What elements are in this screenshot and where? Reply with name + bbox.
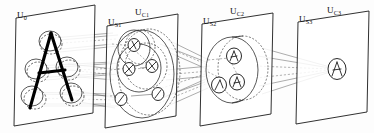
plane-uc2 xyxy=(200,13,273,126)
feature-cell xyxy=(128,39,140,52)
layer-label-uc2: UC2 xyxy=(230,7,244,16)
plane-u0 xyxy=(14,5,95,126)
layer-label-uc3: UC3 xyxy=(327,6,341,15)
layer-label-us2-sub: S2 xyxy=(210,21,217,27)
layer-label-u0: U0 xyxy=(17,11,27,20)
layer-label-us3: US3 xyxy=(299,15,312,24)
layer-label-us1-sub: S1 xyxy=(115,22,122,28)
layer-label-uc1-sub: C1 xyxy=(142,12,149,18)
feature-cell xyxy=(212,77,227,93)
layer-label-uc2-sub: C2 xyxy=(237,11,244,17)
layer-label-u0-sub: 0 xyxy=(24,15,27,21)
feature-cell xyxy=(230,74,245,90)
feature-cell xyxy=(123,63,135,76)
layer-label-uc3-sub: C3 xyxy=(334,10,341,16)
neocognitron-diagram: U0 US1 UC1 US2 UC2 US3 UC3 xyxy=(0,0,374,133)
layer-label-us1: US1 xyxy=(108,18,121,27)
feature-cell xyxy=(152,88,164,101)
feature-cell xyxy=(115,93,127,106)
plane-uc1 xyxy=(105,14,180,128)
layer-label-us3-sub: S3 xyxy=(306,19,313,25)
feature-cell xyxy=(146,60,158,73)
layer-label-uc1: UC1 xyxy=(135,8,149,17)
diagram-canvas xyxy=(0,0,374,133)
feature-cell xyxy=(328,59,346,80)
plane-uc3 xyxy=(296,11,369,124)
feature-cell xyxy=(227,48,242,64)
layer-label-us2: US2 xyxy=(203,17,216,26)
